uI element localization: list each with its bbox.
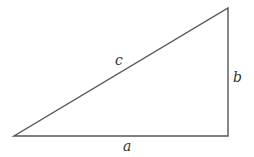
triangle-diagram: c b a: [0, 0, 254, 157]
label-horizontal-leg: a: [123, 139, 131, 153]
triangle-shape: [0, 0, 254, 157]
label-vertical-leg: b: [233, 70, 242, 84]
label-hypotenuse: c: [115, 53, 123, 67]
right-triangle: [14, 8, 228, 136]
